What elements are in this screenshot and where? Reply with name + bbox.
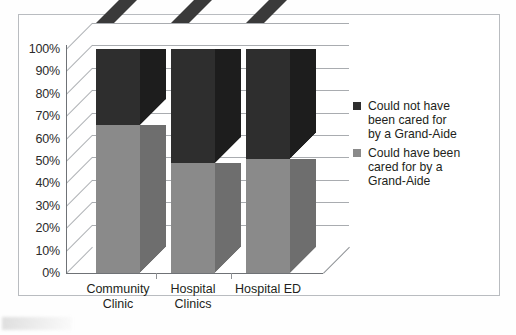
y-tick-label: 90% [16, 65, 60, 78]
gridline-depth-riser [66, 135, 93, 162]
floor-depth-edge [323, 247, 350, 274]
bar-column [171, 23, 215, 273]
legend-swatch-icon [353, 102, 361, 110]
bar-segment-could-not [246, 49, 290, 159]
bar-front-face [246, 159, 290, 273]
legend-label-line: Could have been [368, 146, 465, 160]
gridline-depth-riser [66, 68, 93, 95]
bar-front-face [171, 49, 215, 163]
legend-label-line: Could not have [368, 99, 465, 113]
y-tick-label: 70% [16, 110, 60, 123]
y-tick-label: 40% [16, 177, 60, 190]
gridline-depth-riser [66, 202, 93, 229]
y-tick-label: 60% [16, 133, 60, 146]
legend-item[interactable]: Could have beencared for by aGrand-Aide [353, 146, 465, 189]
legend-label-line: by a Grand-Aide [368, 127, 465, 141]
bar-segment-could [246, 159, 290, 273]
y-tick-label: 30% [16, 200, 60, 213]
legend-label-line: cared for by a [368, 160, 465, 174]
y-tick-label: 0% [16, 267, 60, 280]
bar-top-face [171, 0, 215, 23]
y-axis-line [66, 45, 67, 273]
gridline-depth-riser [66, 180, 93, 207]
bar-side-face [290, 23, 316, 159]
bar-segment-could [96, 125, 140, 273]
category-label-line: Hospital ED [224, 282, 312, 297]
bar-top-face [246, 0, 290, 23]
bar-segment-could-not [96, 49, 140, 125]
chart-frame: 100%90%80%70%60%50%40%30%20%10%0% Commun… [18, 14, 500, 296]
legend-label-line: Grand-Aide [368, 174, 465, 188]
category-label-line: Clinics [149, 297, 237, 312]
bar-column [246, 23, 290, 273]
bar-front-face [246, 49, 290, 159]
bar-top-face [96, 0, 140, 23]
bar-side-face [215, 23, 241, 163]
legend-swatch-icon [353, 149, 361, 157]
category-label: Hospital ED [224, 282, 312, 297]
bar-front-face [96, 49, 140, 125]
y-tick-label: 20% [16, 222, 60, 235]
gridline-depth-riser [66, 113, 93, 140]
gridline-depth-riser [66, 90, 93, 117]
gridline-depth-riser [66, 225, 93, 252]
chart-screenshot: 100%90%80%70%60%50%40%30%20%10%0% Commun… [0, 0, 516, 335]
y-tick-label: 100% [16, 43, 60, 56]
gridline-depth-riser [66, 45, 93, 72]
y-tick-label: 80% [16, 88, 60, 101]
bar-column [96, 23, 140, 273]
legend-label-line: been cared for [368, 113, 465, 127]
gridline-depth-riser [66, 23, 93, 50]
x-axis-tick [231, 273, 232, 279]
bar-side-face [140, 23, 166, 125]
scan-artifact [2, 317, 72, 330]
bar-front-face [96, 125, 140, 273]
chart-legend: Could not havebeen cared forby a Grand-A… [353, 99, 465, 192]
x-axis-line [66, 273, 323, 274]
plot-area: 100%90%80%70%60%50%40%30%20%10%0% Commun… [19, 15, 501, 297]
legend-item[interactable]: Could not havebeen cared forby a Grand-A… [353, 99, 465, 142]
bar-segment-could [171, 163, 215, 273]
gridline-depth-riser [66, 157, 93, 184]
bar-side-face [140, 99, 166, 273]
x-axis-tick [156, 273, 157, 279]
gridline-depth-riser [66, 247, 93, 274]
bar-front-face [171, 163, 215, 273]
y-tick-label: 10% [16, 245, 60, 258]
bar-segment-could-not [171, 49, 215, 163]
y-tick-label: 50% [16, 155, 60, 168]
